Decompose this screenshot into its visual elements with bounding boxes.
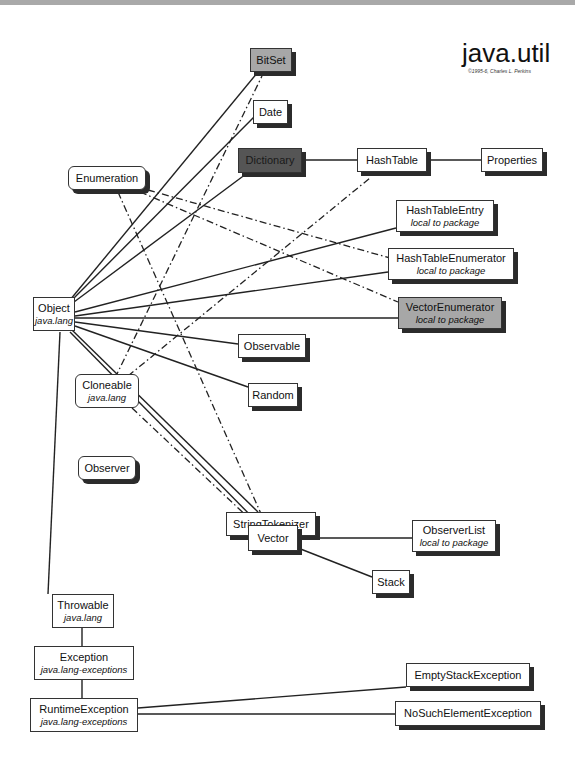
implements-lines — [115, 76, 398, 523]
node-label: Object — [38, 302, 70, 315]
node-label: HashTableEntry — [406, 204, 484, 217]
node-observerlist[interactable]: ObserverList local to package — [412, 520, 496, 552]
node-label: HashTableEnumerator — [396, 252, 505, 265]
package-title: java.util — [462, 38, 550, 69]
node-package: java.lang — [88, 392, 126, 403]
node-label: HashTable — [366, 154, 418, 167]
edge-object-hashtableenumerator — [75, 272, 388, 316]
node-observer[interactable]: Observer — [78, 456, 136, 480]
node-throwable[interactable]: Throwable java.lang — [52, 594, 114, 628]
node-label: Cloneable — [82, 379, 132, 392]
node-date[interactable]: Date — [253, 100, 288, 124]
node-hashtableentry[interactable]: HashTableEntry local to package — [396, 200, 494, 232]
node-package: local to package — [416, 314, 485, 325]
node-dictionary[interactable]: Dictionary — [238, 148, 302, 173]
node-observable[interactable]: Observable — [238, 334, 306, 358]
node-label: BitSet — [256, 54, 285, 67]
node-label: Observable — [244, 340, 300, 353]
node-package: java.lang-exceptions — [41, 664, 128, 675]
node-package: local to package — [411, 217, 480, 228]
node-random[interactable]: Random — [248, 383, 298, 407]
node-label: ObserverList — [423, 524, 485, 537]
copyright-credit: ©1995-6, Charles L. Perkins — [468, 68, 531, 74]
node-object[interactable]: Object java.lang — [33, 297, 75, 331]
node-cloneable[interactable]: Cloneable java.lang — [75, 374, 139, 408]
edge-vector-stack — [298, 548, 372, 577]
node-label: Stack — [377, 576, 405, 589]
edge-cloneable-vector — [132, 408, 254, 523]
node-label: Dictionary — [246, 154, 295, 167]
node-label: NoSuchElementException — [404, 707, 532, 720]
node-runtimeexception[interactable]: RuntimeException java.lang-exceptions — [30, 698, 138, 732]
node-label: Throwable — [57, 599, 108, 612]
node-properties[interactable]: Properties — [481, 148, 543, 172]
node-label: Exception — [60, 651, 108, 664]
node-label: Vector — [257, 532, 288, 545]
node-hashtableenumerator[interactable]: HashTableEnumerator local to package — [388, 248, 514, 280]
node-label: Enumeration — [76, 172, 138, 185]
edge-enumeration-hashtableenumerator — [148, 190, 390, 258]
node-label: Observer — [84, 462, 129, 475]
edge-runtime-emptystack — [138, 687, 406, 708]
node-nosuchelementexception[interactable]: NoSuchElementException — [395, 701, 541, 726]
node-vector[interactable]: Vector — [248, 525, 298, 551]
node-label: Date — [259, 106, 282, 119]
node-label: VectorEnumerator — [406, 301, 495, 314]
node-package: local to package — [420, 537, 489, 548]
node-package: java.lang — [64, 612, 102, 623]
edge-object-dictionary — [74, 174, 246, 302]
node-enumeration[interactable]: Enumeration — [68, 166, 146, 190]
node-package: java.lang-exceptions — [41, 716, 128, 727]
node-exception[interactable]: Exception java.lang-exceptions — [34, 646, 134, 680]
node-emptystackexception[interactable]: EmptyStackException — [406, 663, 530, 687]
edge-object-hashtableentry — [75, 228, 396, 312]
edge-cloneable-bitset — [115, 76, 262, 378]
node-label: RuntimeException — [39, 703, 128, 716]
edge-object-throwable — [48, 332, 60, 594]
node-vectorenumerator[interactable]: VectorEnumerator local to package — [398, 297, 502, 329]
node-stack[interactable]: Stack — [372, 570, 410, 594]
node-label: EmptyStackException — [415, 669, 522, 682]
node-label: Properties — [487, 154, 537, 167]
node-package: java.lang — [35, 315, 73, 326]
node-hashtable[interactable]: HashTable — [357, 148, 427, 172]
edge-object-observable — [75, 322, 238, 344]
node-package: local to package — [417, 265, 486, 276]
node-bitset[interactable]: BitSet — [250, 48, 292, 72]
node-label: Random — [252, 389, 294, 402]
edge-object-vector — [70, 332, 260, 525]
